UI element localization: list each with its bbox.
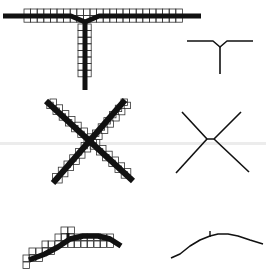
thick-stroke (3, 16, 201, 90)
skeleton-line (171, 231, 263, 258)
t-junction-gridded-stroke (3, 9, 201, 90)
thinning-figure (0, 0, 266, 271)
curve-gridded-stroke (23, 227, 121, 269)
grid-cells (24, 9, 182, 77)
t-junction-skeleton (187, 41, 253, 74)
thick-stroke (46, 100, 133, 183)
curve-skeleton (171, 231, 263, 258)
row-curve (23, 227, 263, 269)
row-x-crossing (46, 99, 249, 183)
x-crossing-gridded-stroke (46, 99, 133, 183)
skeleton-line (187, 41, 253, 74)
row-t-junction (3, 9, 253, 90)
skeleton-line (176, 112, 249, 173)
x-crossing-skeleton (176, 112, 249, 173)
